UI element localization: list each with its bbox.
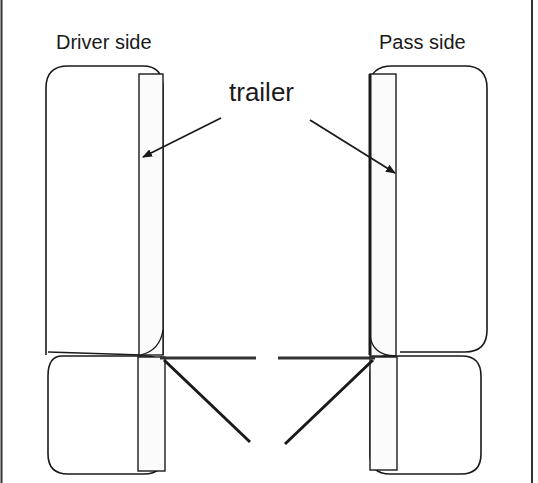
trailer-strip-pass-lower bbox=[370, 357, 397, 470]
pass-side-lower-block bbox=[370, 356, 481, 474]
trailer-strip-driver-lower bbox=[138, 357, 165, 471]
driver-side-upper-block bbox=[46, 66, 163, 355]
pass-side-upper-block bbox=[370, 66, 487, 356]
driver-side-label: Driver side bbox=[56, 31, 152, 54]
trailer-label: trailer bbox=[229, 77, 294, 108]
trailer-strip-driver-upper bbox=[139, 74, 163, 355]
pass-side-label: Pass side bbox=[379, 31, 466, 54]
diagram-drawing bbox=[0, 0, 538, 483]
trailer-strip-pass-upper bbox=[370, 74, 396, 356]
diagram-canvas: Driver side Pass side trailer bbox=[0, 0, 538, 483]
diagonal-bars bbox=[164, 360, 373, 444]
driver-side-lower-block bbox=[48, 356, 165, 474]
